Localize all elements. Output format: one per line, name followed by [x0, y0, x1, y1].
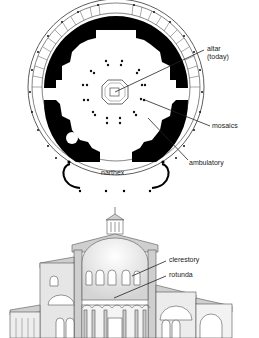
label-altar: altar (today)	[207, 45, 229, 61]
label-rotunda: rotunda	[169, 271, 193, 279]
label-mosaics: mosaics	[212, 122, 238, 130]
label-ambulatory: ambulatory	[189, 159, 224, 167]
floor-plan	[28, 0, 210, 192]
label-narthex: narthex	[101, 169, 124, 177]
label-clerestory: clerestory	[169, 256, 199, 264]
cross-section	[10, 207, 232, 338]
